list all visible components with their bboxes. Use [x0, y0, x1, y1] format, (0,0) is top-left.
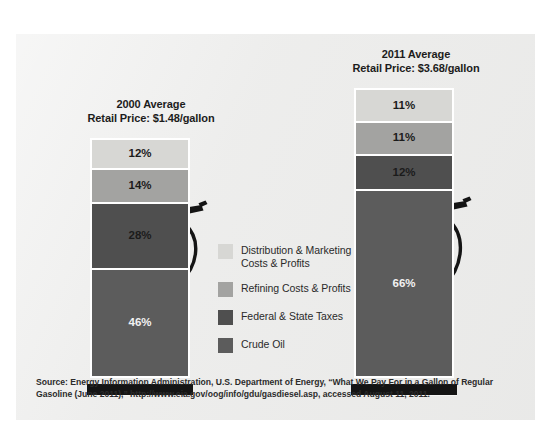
panel-title-2000: 2000 Average Retail Price: $1.48/gallon — [61, 98, 241, 125]
bar-segment-label: 11% — [393, 100, 415, 112]
panel-title-2011: 2011 Average Retail Price: $3.68/gallon — [326, 48, 506, 75]
bar-segment-label: 12% — [392, 167, 415, 179]
bar-segment-refining-2011: 11% — [356, 121, 452, 154]
stacked-bar-2000: 12% 14% 28% 46% — [90, 138, 190, 378]
legend-label-distribution: Distribution & Marketing Costs & Profits — [241, 244, 368, 269]
bar-segment-label: 46% — [128, 317, 151, 329]
bar-segment-refining-2000: 14% — [92, 168, 188, 202]
legend-swatch-taxes — [218, 310, 233, 325]
bar-segment-label: 28% — [128, 230, 151, 242]
legend-label-refining: Refining Costs & Profits — [241, 282, 351, 295]
bar-segment-crude-2011: 66% — [356, 189, 452, 376]
pump-graphic-2000: 12% 14% 28% 46% — [90, 138, 190, 378]
bar-segment-crude-2000: 46% — [92, 268, 188, 376]
bar-segment-label: 11% — [393, 132, 415, 144]
bar-segment-taxes-2000: 28% — [92, 202, 188, 268]
panel-title-2000-line1: 2000 Average — [117, 98, 186, 110]
chart-legend: Distribution & Marketing Costs & Profits… — [218, 244, 368, 366]
panel-title-2011-line2: Retail Price: $3.68/gallon — [326, 62, 506, 76]
bar-segment-distribution-2011: 11% — [356, 90, 452, 121]
legend-label-taxes: Federal & State Taxes — [241, 310, 343, 323]
bar-segment-distribution-2000: 12% — [92, 140, 188, 168]
legend-swatch-crude-oil — [218, 338, 233, 353]
bar-segment-taxes-2011: 12% — [356, 154, 452, 190]
bar-segment-label: 14% — [128, 180, 151, 192]
pump-graphic-2011: 11% 11% 12% 66% — [354, 88, 454, 378]
stacked-bar-2011: 11% 11% 12% 66% — [354, 88, 454, 378]
panel-title-2011-line1: 2011 Average — [382, 48, 450, 60]
figure-panel: 2000 Average Retail Price: $1.48/gallon … — [16, 34, 535, 420]
bar-segment-label: 12% — [128, 148, 151, 160]
legend-item-refining: Refining Costs & Profits — [218, 282, 368, 297]
panel-title-2000-line2: Retail Price: $1.48/gallon — [61, 112, 241, 126]
legend-item-crude-oil: Crude Oil — [218, 338, 368, 353]
legend-item-distribution: Distribution & Marketing Costs & Profits — [218, 244, 368, 269]
legend-swatch-distribution — [218, 244, 233, 259]
legend-item-taxes: Federal & State Taxes — [218, 310, 368, 325]
legend-label-crude-oil: Crude Oil — [241, 338, 285, 351]
source-note: Source: Energy Information Administratio… — [36, 377, 520, 400]
legend-swatch-refining — [218, 282, 233, 297]
bar-segment-label: 66% — [392, 278, 415, 290]
